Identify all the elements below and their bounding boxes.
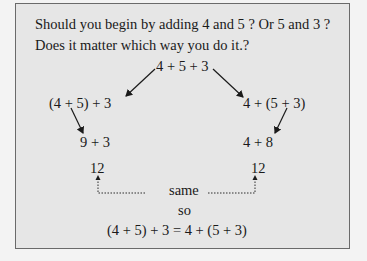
arrow-right-down-icon	[275, 108, 287, 133]
dotted-connector-right-icon	[208, 175, 258, 193]
arrow-top-to-left-icon	[126, 69, 155, 96]
arrow-top-to-right-icon	[213, 69, 243, 97]
arrow-left-down-icon	[71, 108, 83, 133]
dotted-connector-left-icon	[96, 175, 146, 193]
diagram-arrows	[0, 0, 367, 261]
